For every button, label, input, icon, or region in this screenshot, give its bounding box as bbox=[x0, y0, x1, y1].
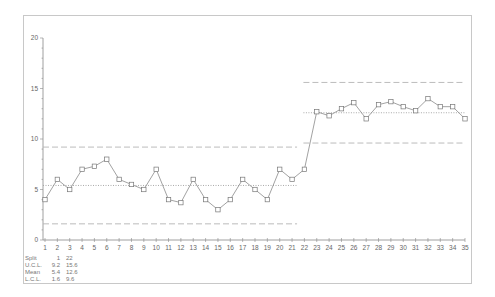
data-point-marker bbox=[166, 197, 170, 201]
stats-table: Split 1 22 U.C.L. 9.2 15.6 Mean 5.4 12.6… bbox=[25, 255, 84, 283]
x-tick-label: 33 bbox=[437, 244, 445, 251]
x-tick-label: 10 bbox=[153, 244, 161, 251]
x-tick-label: 27 bbox=[363, 244, 371, 251]
x-tick-label: 9 bbox=[142, 244, 146, 251]
stats-label: Mean bbox=[25, 269, 46, 276]
data-point-marker bbox=[191, 177, 195, 181]
data-point-marker bbox=[105, 157, 109, 161]
x-tick-label: 14 bbox=[202, 244, 210, 251]
x-tick-label: 24 bbox=[326, 244, 334, 251]
x-tick-label: 20 bbox=[276, 244, 284, 251]
y-axis: 05101520 bbox=[31, 34, 43, 243]
x-tick-label: 2 bbox=[56, 244, 60, 251]
data-point-marker bbox=[389, 99, 393, 103]
data-point-marker bbox=[117, 177, 121, 181]
control-limit-lines bbox=[43, 82, 465, 223]
data-point-marker bbox=[68, 187, 72, 191]
data-series bbox=[43, 96, 467, 211]
y-tick-label: 0 bbox=[34, 236, 38, 243]
x-tick-label: 1 bbox=[43, 244, 47, 251]
x-tick-label: 15 bbox=[214, 244, 222, 251]
stats-label: Split bbox=[25, 255, 46, 262]
x-tick-label: 16 bbox=[227, 244, 235, 251]
data-point-marker bbox=[80, 167, 84, 171]
control-chart: 05101520 1234567891011121314151617181920… bbox=[0, 0, 495, 297]
x-tick-label: 5 bbox=[93, 244, 97, 251]
data-point-marker bbox=[438, 104, 442, 108]
x-tick-label: 17 bbox=[239, 244, 247, 251]
data-point-marker bbox=[463, 117, 467, 121]
y-tick-label: 20 bbox=[31, 34, 39, 41]
data-point-marker bbox=[55, 177, 59, 181]
data-point-marker bbox=[339, 107, 343, 111]
stats-value: 22 bbox=[66, 255, 84, 262]
x-tick-label: 25 bbox=[338, 244, 346, 251]
data-point-marker bbox=[290, 177, 294, 181]
stats-value: 1.6 bbox=[46, 276, 66, 283]
x-tick-label: 35 bbox=[461, 244, 469, 251]
data-point-marker bbox=[315, 110, 319, 114]
y-tick-label: 10 bbox=[31, 135, 39, 142]
x-tick-label: 21 bbox=[288, 244, 296, 251]
stats-row-ucl: U.C.L. 9.2 15.6 bbox=[25, 262, 84, 269]
stats-row-split: Split 1 22 bbox=[25, 255, 84, 262]
stats-value: 9.6 bbox=[66, 276, 84, 283]
y-tick-label: 5 bbox=[34, 186, 38, 193]
x-tick-label: 12 bbox=[177, 244, 185, 251]
data-point-marker bbox=[265, 197, 269, 201]
stats-value: 12.6 bbox=[66, 269, 84, 276]
data-point-marker bbox=[216, 208, 220, 212]
x-tick-label: 22 bbox=[301, 244, 309, 251]
data-point-marker bbox=[228, 197, 232, 201]
x-tick-label: 34 bbox=[449, 244, 457, 251]
data-point-marker bbox=[327, 114, 331, 118]
x-tick-label: 18 bbox=[251, 244, 259, 251]
data-point-marker bbox=[240, 177, 244, 181]
x-tick-label: 11 bbox=[165, 244, 172, 251]
stats-value: 5.4 bbox=[46, 269, 66, 276]
data-point-marker bbox=[129, 182, 133, 186]
data-point-marker bbox=[352, 100, 356, 104]
data-point-marker bbox=[203, 197, 207, 201]
data-point-marker bbox=[278, 167, 282, 171]
x-tick-label: 30 bbox=[400, 244, 408, 251]
data-point-marker bbox=[253, 187, 257, 191]
x-tick-label: 13 bbox=[190, 244, 198, 251]
x-tick-label: 19 bbox=[264, 244, 272, 251]
data-point-marker bbox=[413, 109, 417, 113]
data-point-marker bbox=[364, 117, 368, 121]
data-point-marker bbox=[142, 187, 146, 191]
x-tick-label: 26 bbox=[350, 244, 358, 251]
x-tick-label: 32 bbox=[424, 244, 432, 251]
data-point-marker bbox=[376, 102, 380, 106]
y-tick-label: 15 bbox=[31, 85, 39, 92]
data-point-marker bbox=[154, 167, 158, 171]
series-line bbox=[45, 99, 465, 210]
x-tick-label: 3 bbox=[68, 244, 72, 251]
data-point-marker bbox=[450, 104, 454, 108]
x-tick-label: 29 bbox=[387, 244, 395, 251]
stats-row-mean: Mean 5.4 12.6 bbox=[25, 269, 84, 276]
x-tick-label: 8 bbox=[130, 244, 134, 251]
data-point-marker bbox=[401, 104, 405, 108]
x-axis: 1234567891011121314151617181920212223242… bbox=[43, 238, 469, 251]
x-tick-label: 31 bbox=[412, 244, 420, 251]
data-point-marker bbox=[43, 197, 47, 201]
x-tick-label: 4 bbox=[80, 244, 84, 251]
data-point-marker bbox=[92, 164, 96, 168]
data-point-marker bbox=[302, 167, 306, 171]
stats-label: L.C.L. bbox=[25, 276, 46, 283]
data-point-marker bbox=[426, 96, 430, 100]
stats-value: 15.6 bbox=[66, 262, 84, 269]
stats-value: 1 bbox=[46, 255, 66, 262]
stats-row-lcl: L.C.L. 1.6 9.6 bbox=[25, 276, 84, 283]
x-tick-label: 6 bbox=[105, 244, 109, 251]
x-tick-label: 23 bbox=[313, 244, 321, 251]
stats-label: U.C.L. bbox=[25, 262, 46, 269]
data-point-marker bbox=[179, 200, 183, 204]
stats-value: 9.2 bbox=[46, 262, 66, 269]
x-tick-label: 7 bbox=[117, 244, 121, 251]
x-tick-label: 28 bbox=[375, 244, 383, 251]
